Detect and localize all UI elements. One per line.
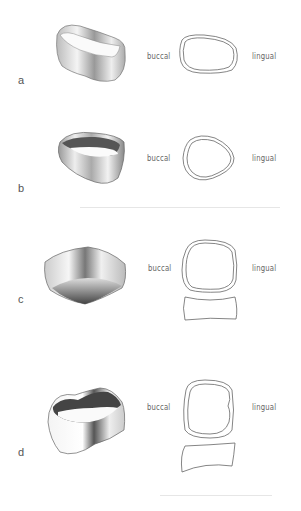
- panel-d: d buccal lingual: [0, 350, 301, 511]
- buccal-label: buccal: [148, 263, 171, 273]
- buccal-label: buccal: [147, 153, 170, 163]
- lingual-label: lingual: [252, 153, 276, 163]
- outline-d-inner: [188, 384, 230, 434]
- side-profile-c: [184, 297, 237, 320]
- lingual-label: lingual: [252, 402, 276, 412]
- lingual-label: lingual: [252, 263, 276, 273]
- outline-b-inner: [187, 139, 231, 177]
- panel-c: c buccal lingual: [0, 220, 301, 350]
- panel-a: a buccal lingual: [0, 0, 301, 120]
- panel-b: b buccal lingual: [0, 120, 301, 220]
- outline-b-outer: [183, 136, 234, 180]
- divider-line: [160, 495, 272, 496]
- panel-letter: a: [18, 74, 24, 86]
- matrix-band-d-illustration: [0, 350, 301, 511]
- panel-letter: b: [18, 182, 24, 194]
- panel-letter: d: [18, 446, 24, 458]
- side-profile-d: [181, 443, 235, 472]
- buccal-label: buccal: [147, 402, 170, 412]
- outline-c-inner: [186, 243, 234, 289]
- matrix-band-c-illustration: [0, 220, 301, 350]
- divider-line: [80, 207, 280, 208]
- outline-a-inner: [183, 38, 234, 70]
- lingual-label: lingual: [252, 51, 276, 61]
- panel-letter: c: [18, 293, 24, 305]
- buccal-label: buccal: [147, 51, 170, 61]
- matrix-band-b-illustration: [0, 120, 301, 220]
